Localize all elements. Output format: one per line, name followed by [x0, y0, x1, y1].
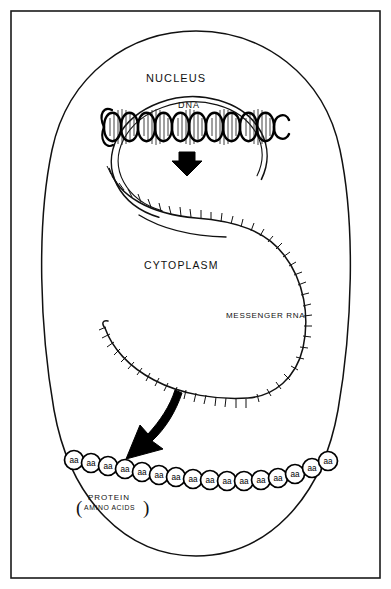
- amino-acid-residue: aa: [99, 457, 118, 476]
- amino-acid-residue: aa: [167, 468, 186, 487]
- amino-acid-residue: aa: [116, 460, 135, 479]
- amino-acid-label: aa: [86, 459, 96, 468]
- amino-acid-residue: aa: [269, 469, 288, 488]
- amino-acid-residue: aa: [286, 465, 305, 484]
- amino-acid-label: aa: [323, 457, 333, 466]
- amino-acid-residue: aa: [133, 463, 152, 482]
- amino-acid-residue: aa: [65, 451, 84, 470]
- amino-acid-residue: aa: [218, 472, 237, 491]
- label-paren-close: ): [143, 498, 149, 517]
- label-cytoplasm: CYTOPLASM: [144, 259, 218, 271]
- amino-acid-label: aa: [120, 465, 130, 474]
- amino-acid-label: aa: [239, 477, 249, 486]
- amino-acid-label: aa: [188, 475, 198, 484]
- amino-acid-label: aa: [154, 471, 164, 480]
- amino-acid-label: aa: [103, 462, 113, 471]
- label-dna: DNA: [178, 100, 200, 110]
- amino-acid-label: aa: [256, 476, 266, 485]
- amino-acid-residue: aa: [201, 471, 220, 490]
- amino-acid-label: aa: [171, 473, 181, 482]
- diagram-canvas: aaaaaaaaaaaaaaaaaaaaaaaaaaaaaaaa NUCLEUS…: [0, 0, 391, 589]
- label-paren-open: (: [76, 498, 82, 517]
- label-messenger-rna: MESSENGER RNA: [226, 311, 305, 320]
- label-amino-acids: AMINO ACIDS: [84, 504, 135, 511]
- amino-acid-label: aa: [222, 477, 232, 486]
- label-nucleus: NUCLEUS: [146, 72, 206, 84]
- amino-acid-residue: aa: [184, 470, 203, 489]
- amino-acid-residue: aa: [252, 471, 271, 490]
- amino-acid-label: aa: [205, 476, 215, 485]
- amino-acid-label: aa: [137, 468, 147, 477]
- amino-acid-label: aa: [69, 456, 79, 465]
- label-protein: PROTEIN: [88, 493, 130, 502]
- amino-acid-residue: aa: [82, 454, 101, 473]
- amino-acid-label: aa: [290, 470, 300, 479]
- amino-acid-residue: aa: [319, 452, 338, 471]
- amino-acid-label: aa: [307, 464, 317, 473]
- amino-acid-residue: aa: [235, 472, 254, 491]
- protein-synthesis-diagram: aaaaaaaaaaaaaaaaaaaaaaaaaaaaaaaa: [0, 0, 391, 589]
- amino-acid-residue: aa: [150, 466, 169, 485]
- amino-acid-label: aa: [273, 474, 283, 483]
